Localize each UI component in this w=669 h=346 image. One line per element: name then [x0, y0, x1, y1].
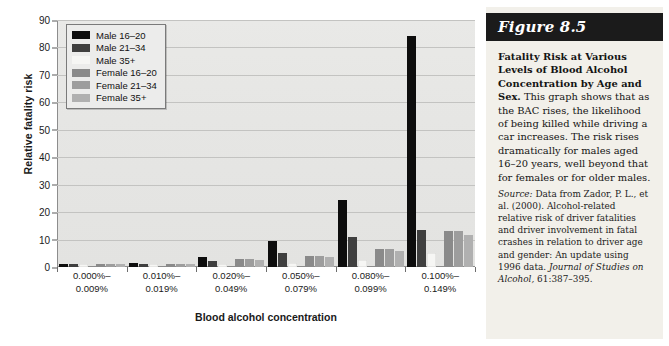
y-axis-title: Relative fatality risk	[22, 44, 34, 204]
legend-item: Male 35+	[72, 54, 157, 67]
bar	[375, 249, 384, 267]
legend: Male 16–20Male 21–34Male 35+Female 16–20…	[66, 24, 166, 109]
bar	[255, 260, 264, 267]
x-tick-label: 0.050%–0.079%	[266, 270, 336, 310]
bar	[407, 36, 416, 267]
legend-item: Male 16–20	[72, 29, 157, 42]
legend-label: Female 35+	[96, 92, 146, 103]
chart-panel: Relative fatality risk 01020304050607080…	[0, 0, 480, 346]
x-tick-label-line: 0.099%	[336, 283, 406, 296]
legend-item: Female 21–34	[72, 79, 157, 92]
legend-swatch	[72, 31, 90, 39]
caption-body: This graph shows that as the BAC rises, …	[498, 91, 650, 182]
x-tick-label: 0.100%–0.149%	[405, 270, 475, 310]
x-tick-label: 0.080%–0.099%	[336, 270, 406, 310]
bar-group	[336, 20, 406, 267]
x-tick-label-line: 0.049%	[196, 283, 266, 296]
legend-label: Male 16–20	[96, 30, 146, 41]
legend-swatch	[72, 56, 90, 64]
bar	[245, 259, 254, 267]
y-tick-label: 40	[39, 152, 57, 163]
source-citation: 61:387–395.	[534, 274, 592, 284]
y-tick-label: 90	[39, 15, 57, 26]
bar	[358, 260, 367, 267]
y-tick-label: 20	[39, 207, 57, 218]
bar	[235, 259, 244, 267]
bar	[444, 231, 453, 267]
bar	[268, 241, 277, 267]
source-label: Source:	[498, 189, 533, 199]
source-body: Data from Zador, P. L., et al. (2000). A…	[498, 189, 648, 272]
plot-area: 0102030405060708090 Male 16–20Male 21–34…	[57, 20, 475, 267]
bar	[198, 257, 207, 267]
x-tick-label-line: 0.050%–	[266, 270, 336, 283]
x-tick-label-line: 0.020%–	[196, 270, 266, 283]
legend-label: Female 16–20	[96, 67, 157, 78]
legend-swatch	[72, 69, 90, 77]
legend-swatch	[72, 81, 90, 89]
caption-panel: Figure 8.5 Fatality Risk at Various Leve…	[480, 0, 669, 346]
bar	[338, 200, 347, 267]
bar	[464, 235, 473, 267]
legend-item: Female 16–20	[72, 67, 157, 80]
figure-root: Relative fatality risk 01020304050607080…	[0, 0, 669, 346]
bar	[427, 253, 436, 267]
x-tick-label: 0.020%–0.049%	[196, 270, 266, 310]
x-tick-label-line: 0.019%	[127, 283, 197, 296]
x-tick-label-line: 0.010%–	[127, 270, 197, 283]
y-tick-label: 70	[39, 69, 57, 80]
x-axis-title: Blood alcohol concentration	[57, 311, 475, 323]
bar	[395, 251, 404, 267]
bar	[417, 230, 426, 267]
y-tick-label: 0	[44, 262, 57, 273]
bar	[454, 231, 463, 267]
bar	[385, 249, 394, 267]
bar-group	[266, 20, 336, 267]
y-tick-label: 80	[39, 42, 57, 53]
legend-label: Male 35+	[96, 55, 135, 66]
bar	[325, 257, 334, 267]
y-tick-label: 50	[39, 124, 57, 135]
x-axis-labels: 0.000%–0.009%0.010%–0.019%0.020%–0.049%0…	[57, 270, 475, 310]
bar	[278, 253, 287, 267]
y-tick-label: 10	[39, 234, 57, 245]
bar-group	[196, 20, 266, 267]
x-tick-mark	[475, 267, 476, 272]
source-text: Source: Data from Zador, P. L., et al. (…	[498, 188, 652, 285]
bar	[305, 256, 314, 267]
x-tick-label-line: 0.009%	[57, 283, 127, 296]
y-tick-label: 30	[39, 179, 57, 190]
x-tick-label-line: 0.149%	[405, 283, 475, 296]
y-tick-label: 60	[39, 97, 57, 108]
legend-swatch	[72, 44, 90, 52]
x-tick-label: 0.000%–0.009%	[57, 270, 127, 310]
legend-label: Female 21–34	[96, 80, 157, 91]
x-tick-label-line: 0.079%	[266, 283, 336, 296]
bar	[348, 237, 357, 267]
legend-swatch	[72, 94, 90, 102]
bar-group	[405, 20, 475, 267]
legend-item: Female 35+	[72, 92, 157, 105]
x-tick-label-line: 0.000%–	[57, 270, 127, 283]
x-tick-label-line: 0.100%–	[405, 270, 475, 283]
x-tick-label-line: 0.080%–	[336, 270, 406, 283]
caption-text: Fatality Risk at Various Levels of Blood…	[498, 50, 652, 285]
figure-number: Figure 8.5	[486, 18, 587, 36]
legend-item: Male 21–34	[72, 42, 157, 55]
x-tick-label: 0.010%–0.019%	[127, 270, 197, 310]
bar	[315, 256, 324, 267]
legend-label: Male 21–34	[96, 42, 146, 53]
figure-banner: Figure 8.5	[486, 13, 663, 41]
